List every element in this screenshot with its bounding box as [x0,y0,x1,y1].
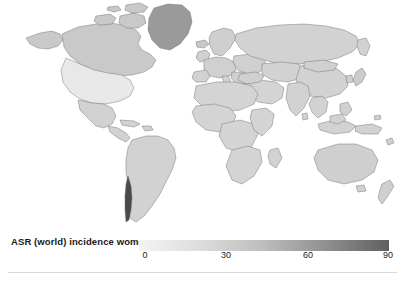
legend-tick-labels: 0 30 60 90 [0,250,405,264]
legend-colorbar [139,237,389,248]
region-korea [346,75,353,83]
legend-tick-60: 60 [303,250,313,260]
region-turkey [238,72,264,84]
world-map-svg: .land{stroke:#6e6e6e;stroke-width:0.45;s… [0,0,405,232]
world-map-figure: .land{stroke:#6e6e6e;stroke-width:0.45;s… [0,0,405,286]
region-tasmania [356,185,366,192]
region-pacific-islet-b [374,115,381,120]
legend-title: ASR (world) incidence women [11,236,150,247]
legend-tick-90: 90 [383,250,393,260]
legend-tick-30: 30 [221,250,231,260]
footer-divider [8,272,397,273]
legend: ASR (world) incidence women 0 30 60 [0,232,405,274]
map-panel: .land{stroke:#6e6e6e;stroke-width:0.45;s… [0,0,405,232]
region-victoria-island [94,14,116,25]
region-baffin-island [119,13,146,28]
region-sri-lanka [302,113,308,120]
legend-tick-0: 0 [142,250,147,260]
region-iberia [192,70,210,82]
